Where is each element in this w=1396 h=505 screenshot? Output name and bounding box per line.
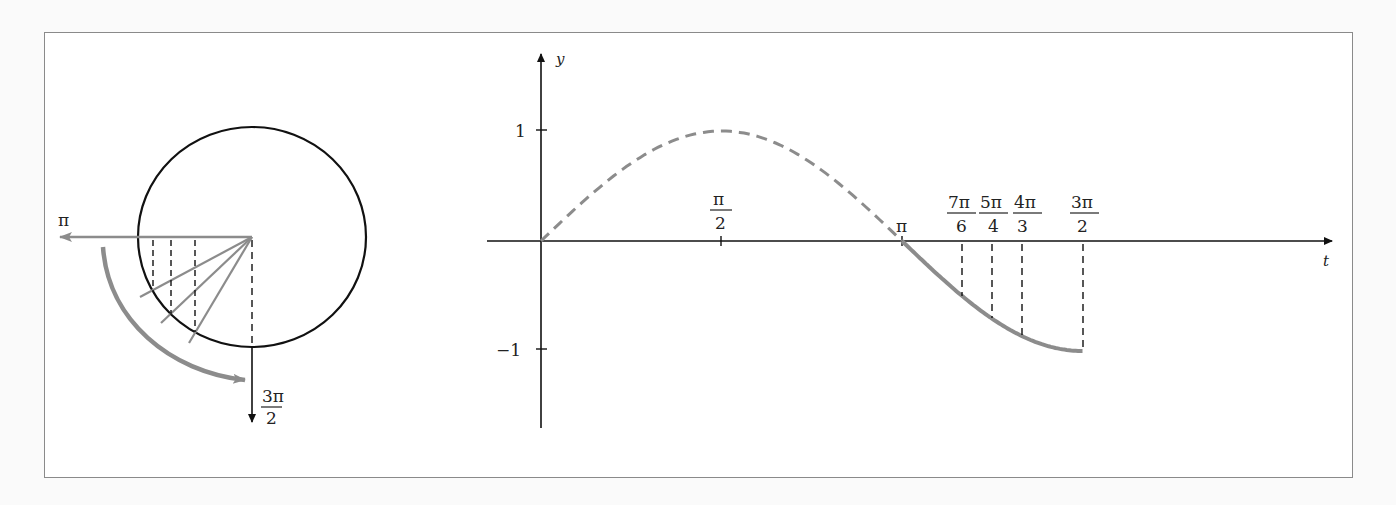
figure-canvas: π 3π 2 y t 1 −1 π 2 π bbox=[0, 0, 1396, 505]
x-tick-3pi-2-den: 2 bbox=[1077, 216, 1088, 236]
x-tick-pi-2-den: 2 bbox=[715, 213, 726, 233]
x-tick-5pi-4-den: 4 bbox=[988, 216, 999, 236]
y-axis-label: y bbox=[555, 50, 565, 68]
y-tick-label-1: 1 bbox=[515, 121, 526, 141]
three-pi-denominator: 2 bbox=[266, 408, 277, 428]
x-tick-4pi-3-den: 3 bbox=[1017, 216, 1028, 236]
x-tick-5pi-4-num: 5π bbox=[980, 192, 1002, 212]
x-tick-3pi-2-num: 3π bbox=[1071, 192, 1093, 212]
rotation-arc-arrow bbox=[103, 247, 245, 380]
x-tick-pi-label: π bbox=[896, 216, 907, 236]
x-tick-4pi-3-num: 4π bbox=[1014, 192, 1036, 212]
ray-5pi-4 bbox=[161, 237, 252, 323]
pi-label: π bbox=[58, 210, 69, 230]
y-tick-label-minus-1: −1 bbox=[496, 340, 521, 360]
x-tick-7pi-6-num: 7π bbox=[948, 192, 970, 212]
unit-circle-panel: π 3π 2 bbox=[58, 127, 366, 428]
x-tick-7pi-6-den: 6 bbox=[956, 216, 967, 236]
x-tick-pi-2-num: π bbox=[713, 189, 724, 209]
three-pi-numerator: 3π bbox=[262, 386, 284, 406]
sine-graph-panel: y t 1 −1 π 2 π 7π 6 5π 4 4π 3 3π 2 bbox=[487, 50, 1332, 428]
t-axis-label: t bbox=[1323, 252, 1330, 270]
